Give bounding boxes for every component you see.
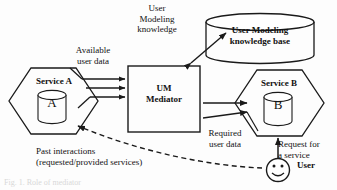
service-a-datastore-label: A: [38, 98, 66, 109]
edge-label-request-for-service: Request for a service: [278, 139, 336, 160]
edge-label-past-interactions: Past interactions (requested/provided se…: [36, 146, 176, 167]
edge-label-um-knowledge: User Modeling knowledge: [128, 3, 186, 35]
service-b-datastore-label: B: [264, 100, 292, 111]
service-b-label: Service B: [248, 78, 310, 89]
edge-label-available-user-data: Available user data: [62, 45, 124, 66]
knowledge-base-label: User Modeling knowledge base: [212, 25, 308, 47]
um-mediator-label: UM Mediator: [134, 83, 194, 104]
user-smiley-icon: [267, 159, 290, 182]
service-a-label: Service A: [22, 76, 86, 87]
user-label: User: [297, 160, 331, 171]
required-user-data-arrows: [203, 103, 258, 131]
edge-label-required-user-data: Required user data: [196, 128, 254, 149]
figure-caption: Fig. 1. Role of mediator: [4, 178, 204, 189]
figure-container: User Modeling knowledge User Modeling kn…: [0, 0, 337, 190]
